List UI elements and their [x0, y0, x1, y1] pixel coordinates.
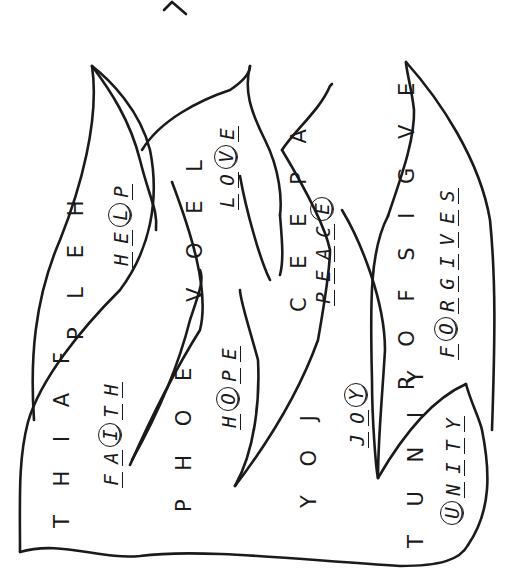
answer-letter: O	[216, 172, 239, 188]
answer-letter: T	[100, 404, 123, 420]
answer-letter: I	[436, 254, 459, 270]
scrambled-word-forgives: R O F S I G V E	[395, 72, 419, 390]
answer-unity: UNITY	[442, 416, 465, 522]
circled-letter: I	[98, 423, 122, 447]
answer-letter: E	[110, 230, 133, 246]
answer-letter: G	[436, 276, 459, 292]
circled-letter: E	[310, 197, 334, 221]
answer-letter: I	[442, 460, 465, 476]
circled-letter: V	[214, 145, 238, 169]
answer-letter: Y	[442, 416, 465, 432]
answer-letter: E	[436, 210, 459, 226]
title-fragment-stroke	[164, 2, 186, 14]
answer-love: LOVE	[216, 126, 239, 210]
scrambled-word-hope: P H O E	[172, 357, 196, 512]
answer-letter: J	[346, 432, 369, 448]
answer-letter: E	[218, 346, 241, 362]
answer-hope: HOPE	[218, 346, 241, 430]
answer-letter: N	[442, 482, 465, 498]
circled-letter: Y	[344, 383, 368, 407]
answer-letter: S	[436, 188, 459, 204]
answer-letter: P	[312, 290, 335, 306]
answer-letter: E	[216, 126, 239, 142]
scrambled-word-peace: C E E P A	[287, 118, 311, 312]
circled-letter: O	[434, 317, 458, 341]
answer-peace: PEACE	[312, 200, 335, 306]
answer-letter: P	[110, 184, 133, 200]
answer-letter: V	[436, 232, 459, 248]
answer-letter: P	[218, 368, 241, 384]
answer-letter: A	[100, 450, 123, 466]
circled-letter: O	[216, 387, 240, 411]
answer-letter: T	[442, 438, 465, 454]
circled-letter: L	[108, 203, 132, 227]
answer-letter: L	[216, 194, 239, 210]
answer-forgives: FORGIVES	[436, 188, 459, 360]
answer-letter: C	[312, 224, 335, 240]
answer-joy: JOY	[346, 386, 369, 448]
scrambled-word-joy: Y O J	[297, 404, 321, 508]
answer-letter: E	[312, 268, 335, 284]
scrambled-word-love: V O E L	[183, 149, 207, 302]
answer-letter: H	[218, 414, 241, 430]
answer-letter: H	[100, 382, 123, 398]
answer-faith: FAITH	[100, 382, 123, 488]
answer-letter: R	[436, 298, 459, 314]
answer-letter: H	[110, 252, 133, 268]
answer-letter: A	[312, 246, 335, 262]
answer-letter: F	[100, 472, 123, 488]
scrambled-word-help: P L E H	[64, 190, 88, 340]
answer-letter: F	[436, 344, 459, 360]
answer-letter: O	[346, 410, 369, 426]
answer-help: HELP	[110, 184, 133, 268]
circled-letter: U	[440, 501, 464, 525]
scrambled-word-faith: T H I A F	[50, 341, 74, 528]
